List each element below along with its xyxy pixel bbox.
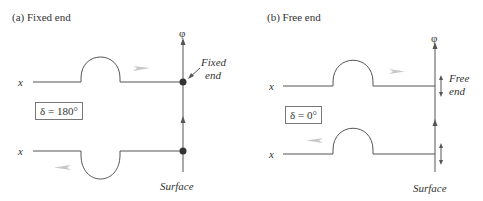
arrow-up-icon bbox=[439, 75, 443, 80]
panel-b-x-label-top: x bbox=[269, 81, 274, 92]
arrow-down-icon bbox=[439, 160, 443, 165]
panel-b-phi-label: φ bbox=[431, 33, 437, 44]
panel-a-reflected-pulse bbox=[33, 151, 183, 179]
panel-b-x-label-bottom: x bbox=[269, 149, 274, 160]
arrow-down-icon bbox=[439, 92, 443, 97]
panel-a-title: (a) Fixed end bbox=[12, 12, 71, 23]
panel-b-reflected-pulse bbox=[283, 128, 435, 154]
panel-b-end-label-2: end bbox=[449, 86, 465, 97]
panel-a-surface-label: Surface bbox=[160, 181, 194, 192]
panel-a-phi-label: φ bbox=[179, 28, 185, 39]
panel-b-axis-arrowhead-2 bbox=[433, 119, 438, 126]
panel-a-end-label-2: end bbox=[205, 70, 221, 81]
arrow-up-icon bbox=[439, 143, 443, 148]
panel-a-motion-arrow-right-icon bbox=[133, 66, 150, 71]
panel-a-x-label-bottom: x bbox=[18, 146, 23, 157]
panel-a-axis-arrowhead bbox=[181, 38, 186, 45]
panel-a-axis-arrowhead-2 bbox=[181, 116, 186, 123]
panel-a-end-label-1: Fixed bbox=[201, 57, 226, 68]
panel-b-title: (b) Free end bbox=[267, 12, 321, 23]
panel-b-incident-pulse bbox=[283, 60, 435, 86]
wave-reflection-diagram bbox=[0, 0, 483, 201]
panel-a-incident-pulse bbox=[33, 57, 183, 82]
panel-a-x-label-top: x bbox=[18, 77, 23, 88]
panel-b-surface-label: Surface bbox=[413, 183, 447, 194]
panel-b-phase-box: δ = 0° bbox=[285, 106, 322, 124]
panel-a-fixed-dot-top bbox=[180, 79, 187, 86]
panel-a-motion-arrow-left-icon bbox=[54, 165, 71, 170]
panel-a-fixed-dot-bottom bbox=[180, 148, 187, 155]
panel-b-motion-arrow-right-icon bbox=[389, 69, 405, 74]
panel-b-motion-arrow-left-icon bbox=[306, 138, 323, 143]
panel-a-phase-box: δ = 180° bbox=[35, 102, 83, 120]
panel-b-end-label-1: Free bbox=[449, 73, 469, 84]
